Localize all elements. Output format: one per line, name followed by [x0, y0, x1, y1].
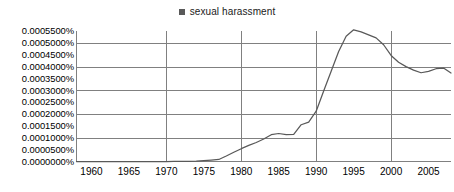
- y-tick-label: 0.0002000%: [22, 109, 74, 118]
- y-tick-label: 0.0003000%: [22, 86, 74, 95]
- y-tick-label: 0.0001500%: [22, 121, 74, 130]
- x-tick-label: 1975: [184, 167, 224, 177]
- vertical-gridlines: [167, 31, 392, 162]
- x-tick-label: 1980: [221, 167, 261, 177]
- x-tick-label: 2000: [371, 167, 411, 177]
- y-tick-label: 0.0001000%: [22, 133, 74, 142]
- y-tick-label: 0.0004500%: [22, 50, 74, 59]
- x-tick-label: 1990: [296, 167, 336, 177]
- y-tick-label: 0.0002500%: [22, 97, 74, 106]
- x-tick-label: 1960: [71, 167, 111, 177]
- x-tick-label: 1970: [146, 167, 186, 177]
- x-tick-label: 2005: [409, 167, 449, 177]
- y-tick-label: 0.0005500%: [22, 26, 74, 35]
- x-tick-label: 1965: [109, 167, 149, 177]
- y-tick-label: 0.0003500%: [22, 74, 74, 83]
- x-tick-label: 1985: [259, 167, 299, 177]
- x-tick-label: 1995: [334, 167, 374, 177]
- ngram-chart: sexual harassment 0.0005500%0.0005000%0.…: [0, 0, 454, 192]
- y-tick-label: 0.0000500%: [22, 145, 74, 154]
- y-tick-label: 0.0000000%: [22, 157, 74, 166]
- horizontal-gridlines: [77, 44, 452, 139]
- data-line-sexual-harassment: [77, 30, 452, 162]
- y-tick-label: 0.0005000%: [22, 38, 74, 47]
- y-tick-label: 0.0004000%: [22, 62, 74, 71]
